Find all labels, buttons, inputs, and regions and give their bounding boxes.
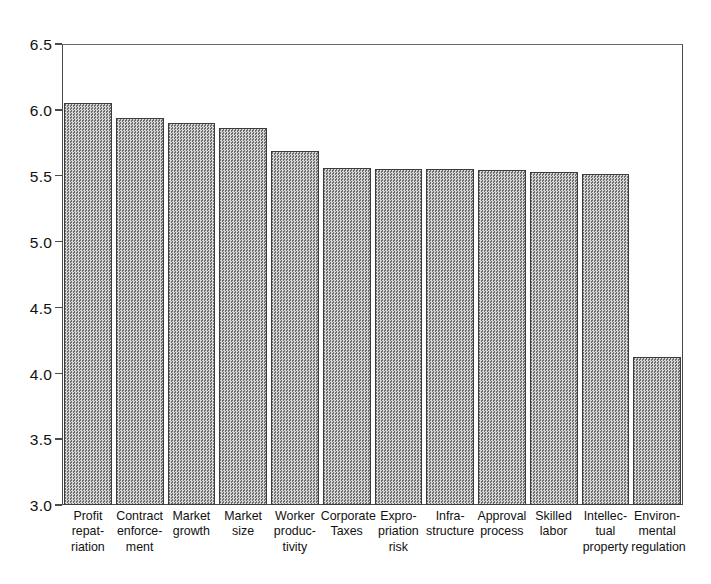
y-axis-tick-mark — [55, 307, 62, 308]
bar-series — [62, 44, 683, 505]
bar-slot — [168, 44, 216, 505]
bar — [375, 169, 423, 505]
bar-slot — [426, 44, 474, 505]
bar — [323, 168, 371, 505]
y-axis-tick-mark — [55, 175, 62, 176]
y-axis-tick-label: 4.0 — [30, 366, 55, 382]
x-axis-category-label: Marketsize — [217, 509, 269, 540]
bar — [271, 151, 319, 505]
bar-slot — [116, 44, 164, 505]
x-axis-category-label: Approvalprocess — [476, 509, 528, 540]
y-axis-tick-mark — [55, 373, 62, 374]
y-axis-tick-mark — [55, 438, 62, 439]
bar-slot — [530, 44, 578, 505]
x-axis-category-label: CorporateTaxes — [321, 509, 373, 540]
bar-slot — [271, 44, 319, 505]
y-axis-tick-label: 5.5 — [30, 168, 55, 184]
y-axis-tick-label: 6.5 — [30, 37, 55, 53]
bar-chart-figure: 3.03.54.04.55.05.56.06.5 Profitrepat-ria… — [0, 0, 711, 584]
bar-slot — [582, 44, 630, 505]
bar-slot — [478, 44, 526, 505]
y-axis-tick-mark — [55, 241, 62, 242]
y-axis-tick-mark — [55, 109, 62, 110]
x-axis-category-label: Expro-priationrisk — [373, 509, 425, 555]
bar-slot — [323, 44, 371, 505]
bar — [116, 118, 164, 505]
bar — [219, 128, 267, 505]
x-axis-category-label: Workerproduc-tivity — [269, 509, 321, 555]
figure-caption — [84, 566, 694, 582]
x-axis-category-label: Infra-structure — [424, 509, 476, 540]
y-axis-tick-label: 6.0 — [30, 103, 55, 119]
bar — [633, 357, 681, 505]
x-axis-category-label: Intellec-tualproperty — [580, 509, 632, 555]
bar-slot — [64, 44, 112, 505]
bar — [478, 170, 526, 505]
x-axis-category-labels: Profitrepat-riationContractenforce-mentM… — [62, 509, 683, 565]
y-axis-tick-label: 5.0 — [30, 234, 55, 250]
x-axis-category-label: Contractenforce-ment — [114, 509, 166, 555]
bar — [426, 169, 474, 505]
y-axis-tick-label: 3.0 — [30, 498, 55, 514]
y-axis: 3.03.54.04.55.05.56.06.5 — [0, 0, 62, 584]
bar-slot — [219, 44, 267, 505]
x-axis-category-label: Skilledlabor — [528, 509, 580, 540]
bar — [64, 103, 112, 505]
y-axis-tick-mark — [55, 43, 62, 44]
x-axis-category-label: Profitrepat-riation — [62, 509, 114, 555]
bar-slot — [375, 44, 423, 505]
bar — [168, 123, 216, 505]
bar — [530, 172, 578, 505]
y-axis-tick-label: 3.5 — [30, 432, 55, 448]
y-axis-tick-mark — [55, 504, 62, 505]
x-axis-category-label: Marketgrowth — [166, 509, 218, 540]
y-axis-tick-label: 4.5 — [30, 300, 55, 316]
bar — [582, 174, 630, 505]
bar-slot — [633, 44, 681, 505]
x-axis-category-label: Environ-mentalregulation — [631, 509, 683, 555]
